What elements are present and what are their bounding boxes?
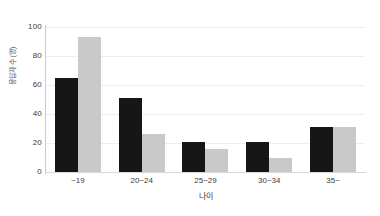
x-axis-tick-label: 35~ <box>301 176 365 186</box>
bar <box>119 98 142 172</box>
bar-group <box>174 27 238 172</box>
bar <box>246 142 269 172</box>
plot-area <box>46 27 365 172</box>
bar-group <box>46 27 110 172</box>
gridline <box>46 172 365 173</box>
y-axis-tick-label: 80 <box>8 52 42 60</box>
x-axis-tick-label: 20~24 <box>110 176 174 186</box>
bar <box>55 78 78 172</box>
bar <box>78 37 101 172</box>
y-axis-tick-label: 20 <box>8 139 42 147</box>
x-axis-tick-labels: ~1920~2425~2930~3435~ <box>46 176 365 190</box>
bar-group <box>110 27 174 172</box>
x-axis-tick-label: 30~34 <box>237 176 301 186</box>
y-axis-tick-label: 100 <box>8 23 42 31</box>
y-axis-tick-labels: 100806040200 <box>2 27 42 172</box>
x-axis-title: 나이 <box>46 192 365 202</box>
bar <box>333 127 356 172</box>
bar <box>142 134 165 172</box>
bar-group <box>237 27 301 172</box>
y-axis-tick-label: 60 <box>8 81 42 89</box>
y-axis-tick-label: 0 <box>8 168 42 176</box>
bar <box>310 127 333 172</box>
bar-chart: 응답자 수 (명) 100806040200 ~1920~2425~2930~3… <box>0 0 380 216</box>
bar <box>205 149 228 172</box>
x-axis-tick-label: 25~29 <box>174 176 238 186</box>
y-axis-tick-label: 40 <box>8 110 42 118</box>
bar <box>269 158 292 173</box>
x-axis-tick-label: ~19 <box>46 176 110 186</box>
bar <box>182 142 205 172</box>
bar-group <box>301 27 365 172</box>
